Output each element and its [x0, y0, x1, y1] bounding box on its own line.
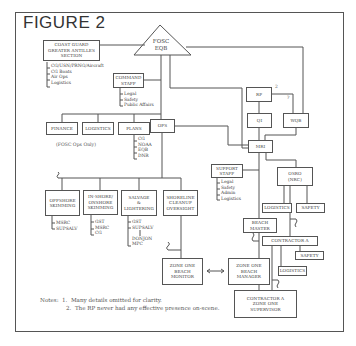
osro-logistics-node: LOGISTICS: [262, 203, 292, 213]
rp-node: RP: [246, 87, 272, 102]
osro-safety-node: SAFETY: [296, 203, 325, 213]
contractor-a-node: CONTRACTOR A: [262, 236, 318, 246]
logistics-node: LOGISTICS: [82, 122, 114, 135]
fosc-node: FOSC EQB: [148, 38, 174, 52]
zone-one-beach-monitor-node: ZONE ONE BEACH MONITOR: [162, 258, 203, 285]
contractor-a-zone-supervisor-node: CONTRACTOR A ZONE ONE SUPERVISOR: [234, 290, 297, 318]
contractor-safety-node: SAFETY: [295, 251, 324, 260]
osro-node: OSRO (NRC): [277, 167, 313, 186]
salvage-list: GST SUPSALV DONJON MPC: [132, 219, 153, 247]
support-staff-list: Legal Safety Admin Logistics: [221, 179, 241, 201]
note-1: 1. Many details omitted for clarity.: [62, 296, 162, 304]
ops-node: OPS: [150, 119, 175, 133]
support-staff-node: SUPPORT STAFF: [211, 164, 243, 178]
qi-node: QI: [247, 113, 272, 128]
shoreline-cleanup-node: SHORELINE CLEANUP OVERSIGHT: [163, 190, 198, 216]
fosc-ops-only-label: (FOSC Ops Only): [56, 142, 96, 147]
notes-label: Notes:: [40, 296, 59, 304]
command-staff-list: Legal Safety Public Affairs: [124, 91, 154, 108]
offshore-list: MSRC SUPSALV: [56, 220, 77, 231]
zone-one-beach-manager-node: ZONE ONE BEACH MANAGER: [228, 258, 270, 285]
finance-node: FINANCE: [46, 122, 78, 135]
inshore-skimming-node: IN-SHORE/ ONSHORE SKIMMING: [83, 190, 118, 215]
contractor-logistics-node: LOGISTICS: [278, 266, 307, 276]
wqb-note-number: ?: [287, 95, 289, 100]
command-staff-node: COMMAND STAFF: [113, 73, 144, 88]
offshore-skimming-node: OFFSHORE SKIMMING: [45, 190, 80, 216]
salvage-lightering-node: SALVAGE & LIGHTERING: [121, 190, 157, 216]
plans-list: CG NOAA EQB DNR: [138, 136, 152, 158]
wqb-node: WQB: [283, 113, 309, 128]
coast-guard-node: COAST GUARD GREATER ANTILLES SECTION: [43, 40, 100, 61]
rp-note-number: 2: [275, 84, 278, 89]
mri-node: MRI: [248, 140, 273, 153]
note-2: 2. The RP never had any effective presen…: [66, 304, 220, 312]
inshore-list: GST MSRC CG: [95, 219, 109, 236]
coast-guard-list: CG/USN/PRNG/Aircraft CG Boats Air Ops Lo…: [51, 63, 104, 85]
plans-node: PLANS: [118, 122, 150, 135]
beach-master-node: BEACH MASTER: [243, 218, 277, 233]
